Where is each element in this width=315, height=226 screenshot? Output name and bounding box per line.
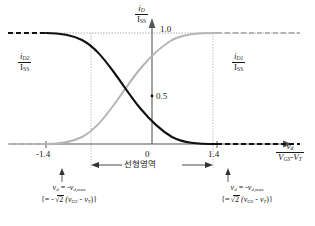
id1-num-sub: D1	[237, 55, 244, 61]
annot-left-arrowhead	[59, 168, 64, 175]
x-axis-label: vd VGS-VT	[276, 142, 304, 163]
annotation-right: vd = -vd,max {=√2 (vGS - vT)}	[188, 184, 306, 205]
id2-num-sub: D2	[23, 55, 30, 61]
id1-den-sub: SS	[237, 66, 243, 72]
ytick-label-one: 1.0	[160, 25, 171, 34]
curve-id2-active	[46, 33, 217, 144]
y-axis-arrowhead	[149, 18, 156, 28]
id2-den-sub: SS	[23, 66, 29, 72]
ytick-label-half: 0.5	[156, 92, 167, 101]
x-axis-den-minus: -V	[290, 152, 299, 162]
annotation-left-line2: {= -√2 (vGS - vT)}	[14, 196, 124, 205]
annotation-left: vd = -vd,max {= -√2 (vGS - vT)}	[14, 184, 124, 205]
x-axis-den-sub2: T	[299, 156, 302, 162]
crossing-marker	[151, 95, 154, 98]
xtick-label-pos: 1.4	[208, 150, 219, 159]
y-axis-num-sub: D	[141, 7, 145, 13]
annot-right-arrowhead	[225, 168, 230, 175]
annotation-right-line2: {=√2 (vGS - vT)}	[188, 196, 306, 205]
y-axis-label: iD ISS	[135, 4, 148, 25]
region-arrow-right	[205, 162, 213, 168]
annotation-right-line1: vd = -vd,max	[188, 184, 306, 193]
curve-label-id1: iD1 ISS	[232, 52, 245, 73]
xtick-label-zero: 0	[145, 150, 150, 159]
annotation-left-line1: vd = -vd,max	[14, 184, 124, 193]
linear-region-label: 선형영역	[124, 160, 156, 169]
x-axis-num-sub: d	[291, 145, 294, 151]
curve-label-id2: iD2 ISS	[18, 52, 31, 73]
y-axis-den-sub: SS	[140, 18, 146, 24]
curve-id1-active	[46, 33, 217, 144]
region-arrow-left	[91, 162, 99, 168]
xtick-label-neg: -1.4	[36, 150, 50, 159]
